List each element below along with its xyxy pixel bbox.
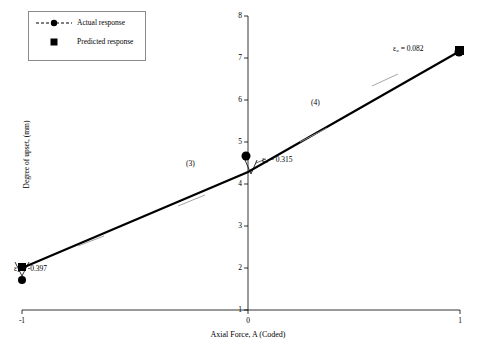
- legend-symbol-line-circle: [35, 18, 73, 28]
- annotation-region-3: (3): [186, 159, 195, 168]
- x-tick-label-2: 1: [450, 316, 470, 325]
- chart-root: Actual response Predicted response Axial…: [0, 0, 496, 352]
- y-axis-label: Degree of upset, (mm): [22, 85, 31, 225]
- x-tick-label-0: -1: [12, 316, 32, 325]
- y-tick-label-6: 6: [228, 95, 242, 104]
- legend-label-actual: Actual response: [77, 18, 147, 27]
- predicted-response-markers: [18, 46, 464, 271]
- y-tick-label-3: 3: [228, 221, 242, 230]
- actual-response-line: [22, 51, 460, 268]
- y-tick-label-8: 8: [228, 11, 242, 20]
- legend-symbol-square: [35, 37, 73, 47]
- y-tick-label-2: 2: [228, 263, 242, 272]
- annotation-region-4: (4): [311, 98, 320, 107]
- annotation-error-mid: ε₅ = 0.315: [262, 155, 293, 164]
- annotation-error-low: ε₄ = -0.397: [14, 264, 47, 273]
- y-tick-label-7: 7: [228, 53, 242, 62]
- y-tick-label-4: 4: [228, 179, 242, 188]
- x-axis-label: Axial Force, A (Coded): [0, 330, 496, 339]
- legend-label-predicted: Predicted response: [77, 37, 147, 46]
- y-tick-label-1: 1: [228, 305, 242, 314]
- actual-response-markers: [18, 48, 464, 285]
- annotation-error-high: ε₆ = 0.082: [393, 44, 424, 53]
- y-tick-label-5: 5: [228, 137, 242, 146]
- x-tick-label-1: 0: [238, 316, 258, 325]
- legend: Actual response Predicted response: [28, 11, 146, 61]
